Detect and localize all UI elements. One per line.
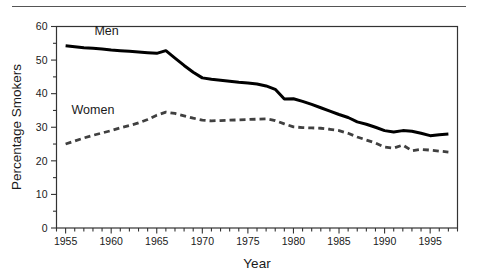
x-tick-label: 1965 [145, 235, 169, 247]
plot-area-frame [57, 27, 458, 229]
chart-figure: 0102030405060 19551960196519701975198019… [0, 0, 478, 275]
x-tick-label: 1990 [373, 235, 397, 247]
y-tick-label: 50 [36, 54, 48, 66]
y-tick-label: 60 [36, 20, 48, 32]
y-tick-label: 20 [36, 155, 48, 167]
y-tick-label: 30 [36, 121, 48, 133]
x-tick-label: 1975 [236, 235, 260, 247]
smokers-line-chart: 0102030405060 19551960196519701975198019… [0, 0, 478, 275]
x-tick-label: 1985 [327, 235, 351, 247]
y-tick-label: 10 [36, 188, 48, 200]
x-axis-ticks: 195519601965197019751980198519901995 [54, 228, 458, 247]
y-tick-label: 0 [42, 222, 48, 234]
y-axis-ticks: 0102030405060 [36, 20, 57, 234]
series-annotations: MenWomen [72, 24, 119, 117]
series-line-men [66, 46, 449, 136]
x-tick-label: 1970 [191, 235, 215, 247]
series-label-women: Women [72, 103, 115, 117]
x-tick-label: 1995 [418, 235, 442, 247]
y-tick-label: 40 [36, 87, 48, 99]
y-axis-title: Percentage Smokers [9, 64, 24, 190]
x-tick-label: 1960 [100, 235, 124, 247]
data-series-group [66, 46, 449, 152]
x-tick-label: 1955 [54, 235, 78, 247]
x-axis-title: Year [243, 256, 271, 271]
series-label-men: Men [94, 24, 118, 38]
x-tick-label: 1980 [282, 235, 306, 247]
